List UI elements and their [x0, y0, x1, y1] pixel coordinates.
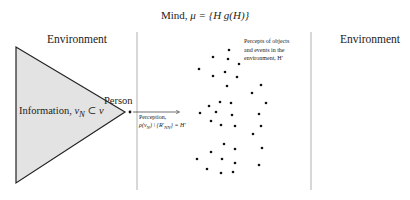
- percept-dot: [199, 112, 202, 115]
- environment-label-right: Environment: [340, 33, 400, 45]
- perception-formula-c: } = H′: [171, 122, 186, 128]
- percept-dot: [228, 49, 231, 52]
- percept-dot: [196, 158, 199, 161]
- percept-dot: [226, 85, 229, 88]
- person-label: Person: [104, 95, 133, 106]
- diagram-title: Mind, μ = {H g(H)}: [0, 9, 410, 21]
- percept-dot: [221, 158, 224, 161]
- percept-dot: [265, 102, 268, 105]
- percept-dot: [258, 113, 261, 116]
- percept-dot: [212, 75, 215, 78]
- diagram-canvas: [0, 0, 410, 200]
- percept-dot: [251, 92, 254, 95]
- perception-formula-b: ) \ {R′: [150, 122, 164, 128]
- title-prefix: Mind,: [161, 9, 190, 21]
- percept-dot: [206, 168, 209, 171]
- percept-dot: [220, 172, 223, 175]
- percept-dot: [224, 71, 227, 74]
- percept-dot: [227, 58, 230, 61]
- percept-dot: [223, 143, 226, 146]
- percept-dot: [231, 114, 234, 117]
- information-text: Information,: [19, 105, 74, 116]
- percept-dot: [236, 76, 239, 79]
- percept-dot: [260, 125, 263, 128]
- perception-label: Perception, ρ(vN) \ {R′NN} = H′: [139, 113, 186, 132]
- percept-dot: [238, 63, 241, 66]
- perception-formula-a: ρ(v: [139, 122, 147, 128]
- percepts-line-2: and events in the: [244, 46, 289, 55]
- information-label: Information, vN ⊂ v: [19, 104, 104, 119]
- percept-dot: [234, 125, 237, 128]
- information-subset: ⊂ v: [85, 105, 104, 116]
- percept-dot: [219, 101, 222, 104]
- environment-label-left: Environment: [47, 33, 107, 45]
- percept-dots: [196, 49, 268, 175]
- percept-dot: [260, 84, 263, 87]
- perception-formula: ρ(vN) \ {R′NN} = H′: [139, 121, 186, 132]
- percept-dot: [252, 133, 255, 136]
- perception-title: Perception,: [139, 113, 186, 121]
- percept-dot: [261, 147, 264, 150]
- perception-formula-sub2: NN: [164, 125, 171, 130]
- percepts-line-1: Percepts of objects: [244, 37, 289, 46]
- percept-dot: [198, 68, 201, 71]
- percept-dot: [210, 120, 213, 123]
- percept-dot: [208, 105, 211, 108]
- percept-dot: [234, 148, 237, 151]
- percept-dot: [234, 162, 237, 165]
- title-formula: = {H g(H)}: [196, 9, 249, 21]
- percept-dot: [210, 151, 213, 154]
- person-dot: [129, 111, 132, 114]
- percepts-line-3: environment, H′: [244, 54, 289, 63]
- percept-dot: [230, 102, 233, 105]
- percepts-label: Percepts of objects and events in the en…: [244, 37, 289, 63]
- percept-dot: [220, 124, 223, 127]
- percept-dot: [215, 111, 218, 114]
- percept-dot: [212, 56, 215, 59]
- percept-dot: [232, 171, 235, 174]
- percept-dot: [258, 164, 261, 167]
